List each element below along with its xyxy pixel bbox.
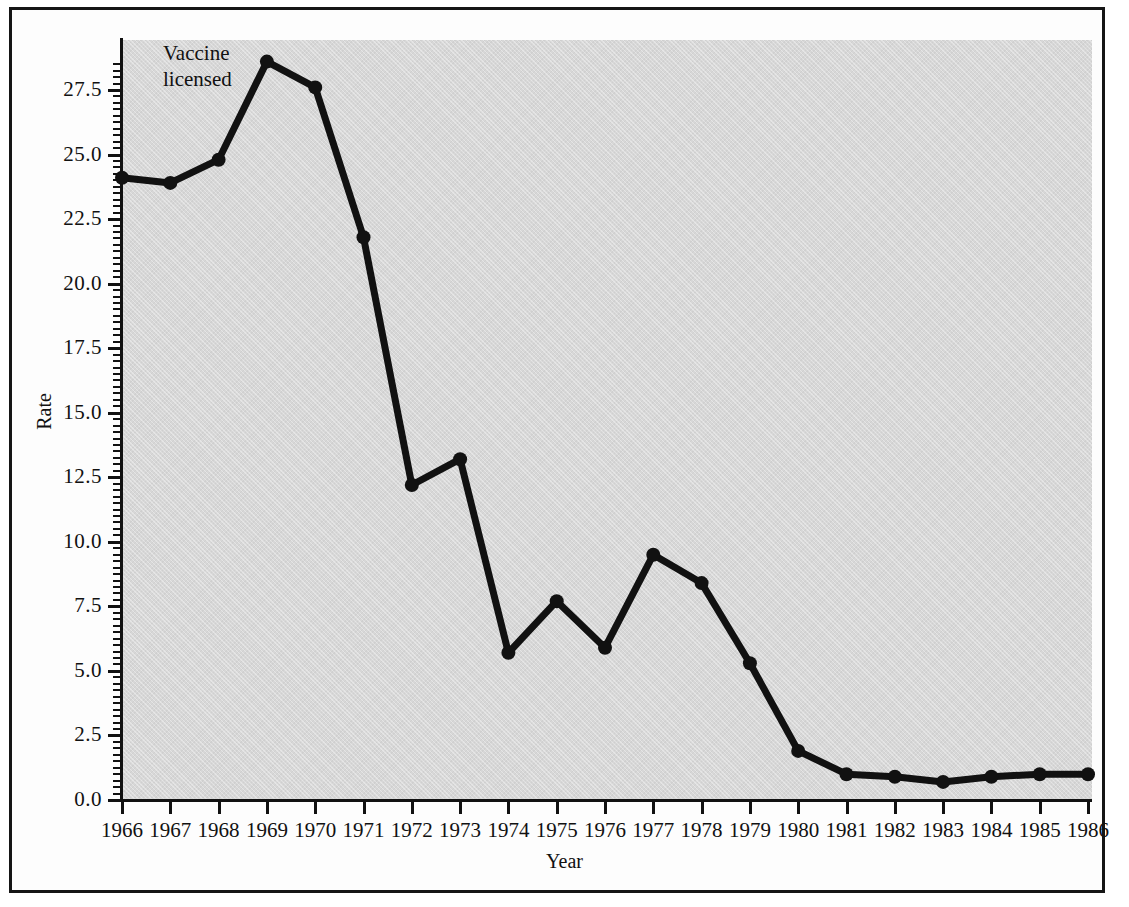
y-axis-minor-tick — [113, 709, 123, 711]
y-axis-minor-tick — [113, 276, 123, 278]
y-axis-minor-tick — [113, 70, 123, 72]
y-axis-minor-tick — [113, 676, 123, 678]
x-axis-tick — [749, 799, 752, 814]
x-axis-tick — [894, 799, 897, 814]
y-axis-tick-label: 25.0 — [32, 142, 102, 164]
y-axis-minor-tick — [113, 289, 123, 291]
y-axis-minor-tick — [113, 483, 123, 485]
y-axis-minor-tick — [113, 134, 123, 136]
y-axis-minor-tick — [113, 754, 123, 756]
plot-background — [122, 40, 1092, 800]
y-axis-minor-tick — [113, 560, 123, 562]
y-axis-tick-label-text: 22.5 — [38, 206, 102, 231]
y-axis-minor-tick — [113, 186, 123, 188]
y-axis-minor-tick — [113, 786, 123, 788]
y-axis-tick-label: 17.5 — [32, 335, 102, 357]
y-axis-minor-tick — [113, 205, 123, 207]
y-axis-minor-tick — [113, 425, 123, 427]
y-axis-minor-tick — [113, 760, 123, 762]
y-axis-minor-tick — [113, 392, 123, 394]
y-axis-minor-tick — [113, 644, 123, 646]
y-axis-minor-tick — [113, 147, 123, 149]
y-axis-minor-tick — [113, 367, 123, 369]
y-axis-tick-label-text: 0.0 — [38, 787, 102, 812]
y-axis-minor-tick — [113, 328, 123, 330]
y-axis-minor-tick — [113, 450, 123, 452]
y-axis-minor-tick — [113, 308, 123, 310]
y-axis-tick — [108, 670, 123, 673]
y-axis-tick — [108, 412, 123, 415]
y-axis-minor-tick — [113, 625, 123, 627]
y-axis-minor-tick — [113, 780, 123, 782]
y-axis-minor-tick — [113, 212, 123, 214]
x-axis-tick — [942, 799, 945, 814]
y-axis-minor-tick — [113, 638, 123, 640]
y-axis-minor-tick — [113, 702, 123, 704]
y-axis-tick-label: 0.0 — [32, 787, 102, 809]
y-axis-minor-tick — [113, 547, 123, 549]
y-axis-minor-tick — [113, 651, 123, 653]
y-axis-minor-tick — [113, 657, 123, 659]
y-axis-minor-tick — [113, 141, 123, 143]
y-axis-minor-tick — [113, 341, 123, 343]
y-axis-minor-tick — [113, 722, 123, 724]
y-axis-minor-tick — [113, 179, 123, 181]
x-axis-tick — [266, 799, 269, 814]
y-axis-tick — [108, 89, 123, 92]
y-axis-tick-label-text: 5.0 — [38, 658, 102, 683]
y-axis-minor-tick — [113, 405, 123, 407]
y-axis-tick — [108, 154, 123, 157]
y-axis-minor-tick — [113, 586, 123, 588]
x-axis-tick — [846, 799, 849, 814]
y-axis-minor-tick — [113, 166, 123, 168]
y-axis-minor-tick — [113, 192, 123, 194]
x-axis-tick — [507, 799, 510, 814]
y-axis-minor-tick — [113, 386, 123, 388]
y-axis-tick — [108, 347, 123, 350]
y-axis-minor-tick — [113, 599, 123, 601]
x-axis-title: Year — [0, 850, 1129, 873]
y-axis-minor-tick — [113, 354, 123, 356]
y-axis-tick-label: 5.0 — [32, 658, 102, 680]
y-axis-minor-tick — [113, 250, 123, 252]
y-axis-minor-tick — [113, 399, 123, 401]
y-axis-tick-label-text: 25.0 — [38, 142, 102, 167]
x-axis-tick — [1087, 799, 1090, 814]
y-axis-minor-tick — [113, 741, 123, 743]
y-axis-minor-tick — [113, 580, 123, 582]
y-axis-tick — [108, 283, 123, 286]
y-axis-minor-tick — [113, 296, 123, 298]
y-axis-minor-tick — [113, 663, 123, 665]
y-axis-minor-tick — [113, 515, 123, 517]
y-axis-minor-tick — [113, 521, 123, 523]
y-axis-minor-tick — [113, 618, 123, 620]
y-axis-tick — [108, 605, 123, 608]
y-axis-tick-label: 27.5 — [32, 77, 102, 99]
y-axis-tick — [108, 734, 123, 737]
y-axis-tick-label-text: 27.5 — [38, 77, 102, 102]
y-axis-minor-tick — [113, 270, 123, 272]
y-axis-tick — [108, 541, 123, 544]
y-axis-minor-tick — [113, 76, 123, 78]
y-axis-minor-tick — [113, 360, 123, 362]
y-axis-tick-label: 12.5 — [32, 464, 102, 486]
y-axis-minor-tick — [113, 160, 123, 162]
y-axis-minor-tick — [113, 592, 123, 594]
y-axis-minor-tick — [113, 418, 123, 420]
y-axis-minor-tick — [113, 302, 123, 304]
y-axis-minor-tick — [113, 631, 123, 633]
y-axis-minor-tick — [113, 108, 123, 110]
y-axis-minor-tick — [113, 528, 123, 530]
x-axis-tick — [459, 799, 462, 814]
x-axis-tick — [1039, 799, 1042, 814]
y-axis-minor-tick — [113, 237, 123, 239]
y-axis-minor-tick — [113, 612, 123, 614]
y-axis-tick-label: 20.0 — [32, 271, 102, 293]
y-axis-minor-tick — [113, 321, 123, 323]
y-axis-minor-tick — [113, 334, 123, 336]
y-axis-minor-tick — [113, 263, 123, 265]
y-axis-minor-tick — [113, 470, 123, 472]
y-axis-minor-tick — [113, 63, 123, 65]
y-axis-tick — [108, 218, 123, 221]
y-axis-minor-tick — [113, 95, 123, 97]
